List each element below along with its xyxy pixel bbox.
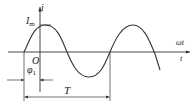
y-axis-label: i	[41, 3, 44, 13]
amplitude-label: Im	[26, 16, 35, 28]
sine-curve	[24, 25, 160, 77]
phase-label: φ1	[27, 65, 36, 77]
x-axis-label-t: t	[180, 55, 182, 63]
sine-wave-diagram: i Im O φ1 T ωt t	[0, 0, 193, 112]
x-axis-label-omega-t: ωt	[176, 39, 184, 47]
period-label: T	[64, 85, 70, 96]
